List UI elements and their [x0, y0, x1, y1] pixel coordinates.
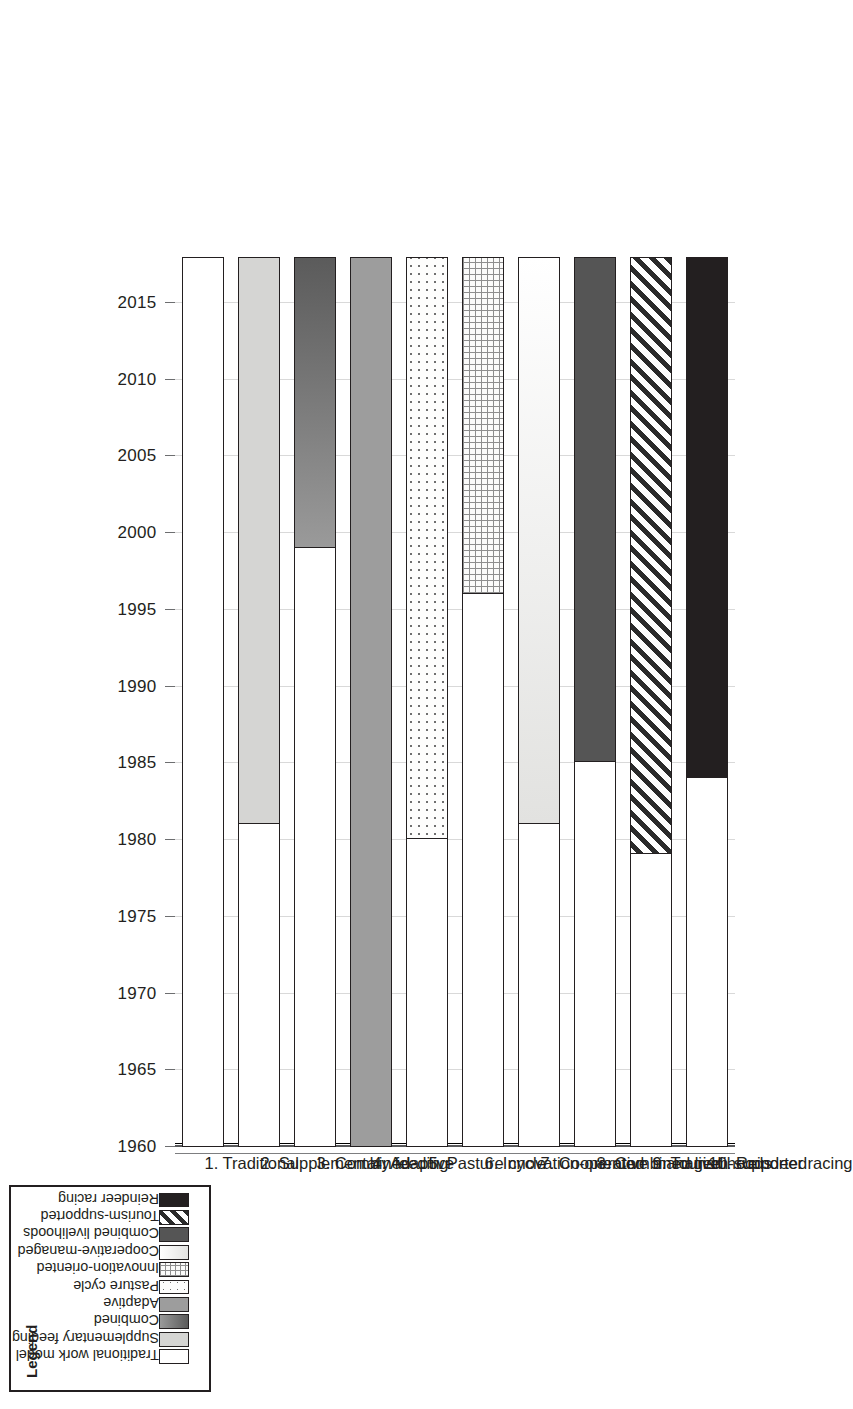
axis-tick-label: 1985: [115, 753, 159, 773]
axis-tick: [165, 686, 175, 687]
legend-label: Traditional work model: [16, 1347, 159, 1363]
legend-label: Innovation-oriented: [37, 1260, 159, 1276]
legend-swatch: [159, 1193, 189, 1208]
bar-track[interactable]: [350, 257, 392, 1147]
axis-tick: [165, 839, 175, 840]
axis-tick: [165, 455, 175, 456]
bar-track[interactable]: [462, 257, 504, 1147]
legend-label: Adaptive: [103, 1295, 159, 1311]
legend-swatch: [159, 1227, 189, 1242]
legend-label: Combined livelihoods: [23, 1226, 159, 1242]
axis-tick: [165, 993, 175, 994]
legend-label: Cooperative-managed: [18, 1243, 159, 1259]
axis-tick: [165, 1146, 175, 1147]
bar-fill: [519, 258, 559, 824]
category-label: 10. Reindeer racing: [709, 1154, 853, 1173]
legend-label: Supplementary feeding: [12, 1330, 159, 1346]
legend-swatch: [159, 1349, 189, 1364]
axis-tick-label: 1990: [115, 677, 159, 697]
legend: Legend Traditional work modelSupplementa…: [9, 1185, 211, 1392]
bar-fill: [407, 258, 447, 839]
legend-label: Combined: [94, 1313, 159, 1329]
axis-tick-label: 2015: [115, 293, 159, 313]
bar-track[interactable]: [518, 257, 560, 1147]
axis-tick: [165, 379, 175, 380]
legend-label: Tourism-supported: [41, 1208, 159, 1224]
bar-track[interactable]: [238, 257, 280, 1147]
axis-tick-label: 1995: [115, 600, 159, 620]
legend-swatch: [159, 1280, 189, 1295]
axis-tick-label: 2010: [115, 370, 159, 390]
legend-content: Legend Traditional work modelSupplementa…: [9, 1185, 211, 1392]
bar-fill: [239, 258, 279, 824]
bar-fill: [575, 258, 615, 762]
bar-track[interactable]: [406, 257, 448, 1147]
bar-track[interactable]: [294, 257, 336, 1147]
legend-label: Reindeer racing: [58, 1191, 159, 1207]
axis-tick-label: 1970: [115, 984, 159, 1004]
legend-swatch: [159, 1297, 189, 1312]
axis-tick-label: 1965: [115, 1060, 159, 1080]
axis-tick-label: 1975: [115, 907, 159, 927]
bar-fill: [687, 258, 727, 778]
axis-tick: [165, 302, 175, 303]
bar-track[interactable]: [182, 257, 224, 1147]
legend-swatch: [159, 1262, 189, 1277]
plot-frame: 1960196519701975198019851990199520002005…: [175, 257, 735, 1147]
legend-swatch: [159, 1245, 189, 1260]
bar-fill: [183, 258, 223, 1146]
legend-swatch: [159, 1314, 189, 1329]
axis-tick-label: 2005: [115, 446, 159, 466]
axis-tick-label: 2000: [115, 523, 159, 543]
axis-tick: [165, 916, 175, 917]
bar-fill: [631, 258, 671, 854]
bar-track[interactable]: [686, 257, 728, 1147]
axis-tick: [165, 609, 175, 610]
bar-fill: [351, 258, 391, 1146]
axis-tick: [165, 532, 175, 533]
axis-tick-label: 1960: [115, 1137, 159, 1157]
bar-track[interactable]: [630, 257, 672, 1147]
axis-tick: [165, 762, 175, 763]
legend-label: Pasture cycle: [73, 1278, 159, 1294]
axis-tick: [165, 1069, 175, 1070]
bar-fill: [463, 258, 503, 594]
bar-track[interactable]: [574, 257, 616, 1147]
bar-fill: [295, 258, 335, 548]
plot-area: 1960196519701975198019851990199520002005…: [175, 257, 735, 1147]
legend-swatch: [159, 1210, 189, 1225]
axis-tick-label: 1980: [115, 830, 159, 850]
legend-swatch: [159, 1332, 189, 1347]
